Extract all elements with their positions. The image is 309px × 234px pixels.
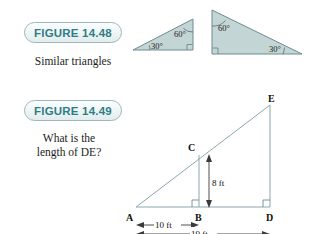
vertex-label-b: B [195,212,202,223]
similar-triangles-figure: 30° 60° 60° 30° [130,2,305,74]
dimension-arrowhead-10ft-left [136,222,144,228]
right-angle-marker-b [192,200,199,207]
vertex-label-d: D [266,212,273,223]
small-triangle-angle-label-30: 30° [151,41,163,51]
figure-badge-14-49: FIGURE 14.49 [24,100,122,121]
dimension-arrowhead-8ft-top [206,154,212,162]
vertex-label-c: C [188,142,195,153]
large-triangle-angle-label-30: 30° [269,44,281,54]
right-angle-marker-d [263,200,270,207]
dimension-label-10ft: 10 ft [155,220,172,230]
length-of-de-figure: A B C D E 8 ft 10 ft 19 ft [118,92,309,234]
figure-caption-14-49: What is thelength of DE? [14,131,124,159]
dimension-arrowhead-19ft-right [262,231,270,234]
figure-badge-14-48: FIGURE 14.48 [24,22,122,43]
vertex-label-a: A [126,212,134,223]
small-triangle-angle-label-60: 60° [174,29,186,39]
dimension-label-19ft: 19 ft [191,229,208,234]
large-triangle-angle-label-60: 60° [218,23,230,33]
dimension-label-8ft: 8 ft [212,178,225,188]
figure-caption-14-48: Similar triangles [18,54,128,68]
segment-ae-hypotenuse [136,105,270,207]
dimension-arrowhead-19ft-left [136,231,144,234]
vertex-label-e: E [268,93,275,104]
figure-sheet: FIGURE 14.48 Similar triangles 30° 60° 6… [0,0,309,234]
